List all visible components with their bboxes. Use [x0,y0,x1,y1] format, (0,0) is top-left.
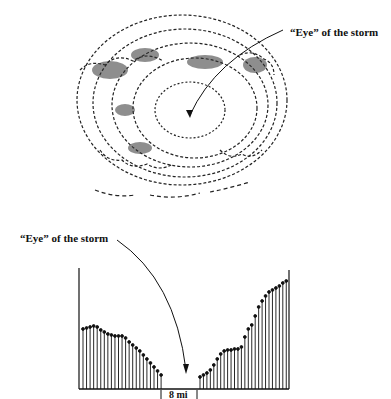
bar-tip [82,328,85,331]
bar-tip [149,362,152,365]
cloud-height-bars [82,280,288,389]
bar-tip [261,300,264,303]
storm-cloud-sketch [77,15,287,197]
eye-arrow-bottom [117,240,186,370]
bar-tip [257,306,260,309]
bar-tip [103,331,106,334]
bar-tip [223,350,226,353]
eye-label-top: “Eye” of the storm [290,26,378,38]
bar-tip [285,280,288,283]
bar-tip [230,349,233,352]
bar-tip [142,354,145,357]
bar-tip [106,333,109,336]
bar-tip [243,336,246,339]
eye-label-bottom: “Eye” of the storm [20,232,108,244]
bar-tip [226,349,229,352]
bar-tip [268,291,271,294]
scale-label: 8 mi [169,389,188,399]
bar-tip [124,337,127,340]
bar-tip [114,335,117,338]
bar-tip [131,344,134,347]
bar-tip [278,285,281,288]
bar-tip [138,350,141,353]
storm-diagram [0,0,391,399]
bar-tip [85,327,88,330]
bar-tip [250,324,253,327]
bar-tip [128,341,131,344]
bar-tip [216,358,219,361]
bar-tip [146,358,149,361]
bar-tip [121,335,124,338]
bar-tip [209,369,212,372]
bar-tip [254,315,257,318]
bar-tip [275,287,278,290]
bar-tip [264,295,267,298]
bar-tip [240,346,243,349]
bar-tip [153,366,156,369]
bar-tip [206,372,209,375]
bar-tip [219,353,222,356]
bar-tip [156,370,159,373]
bar-tip [96,326,99,329]
bar-tip [212,364,215,367]
bar-tip [237,348,240,351]
bar-tip [233,348,236,351]
bar-tip [110,334,113,337]
bar-tip [92,325,95,328]
storm-dense-bands [92,48,267,154]
bar-tip [135,347,138,350]
bar-tip [281,282,284,285]
bar-tip [99,329,102,332]
bar-tip [89,326,92,329]
bar-tip [117,335,120,338]
bar-tip [271,289,274,292]
bar-tip [202,374,205,377]
bar-tip [199,376,202,379]
bar-tip [247,328,250,331]
bar-tip [160,374,163,377]
